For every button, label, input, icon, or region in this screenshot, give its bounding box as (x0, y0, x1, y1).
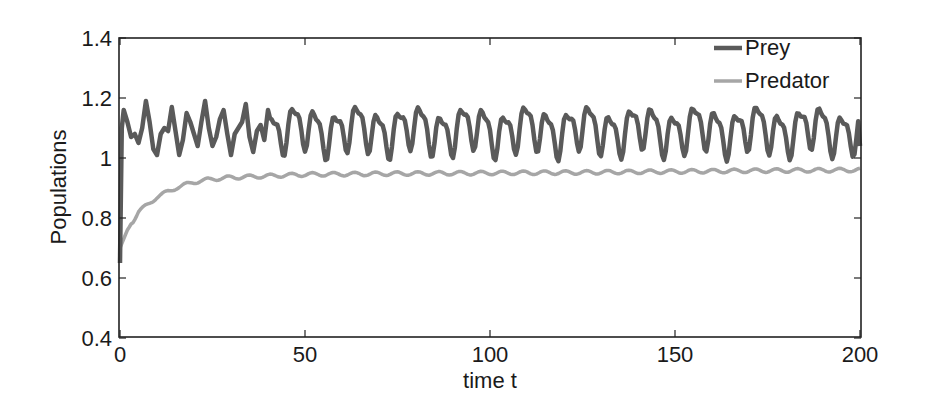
y-tick-label: 1 (100, 146, 112, 171)
x-axis-label: time t (463, 368, 517, 393)
legend-label: Predator (745, 68, 829, 93)
y-tick-label: 0.6 (81, 266, 112, 291)
y-tick-label: 0.8 (81, 206, 112, 231)
x-tick-label: 0 (114, 342, 126, 367)
x-tick-label: 50 (293, 342, 317, 367)
x-tick-label: 100 (472, 342, 509, 367)
legend-label: Prey (745, 35, 790, 60)
x-tick-label: 200 (842, 342, 879, 367)
y-axis-label: Populations (46, 130, 71, 245)
y-tick-label: 0.4 (81, 326, 112, 351)
y-tick-label: 1.2 (81, 86, 112, 111)
chart-background (0, 0, 925, 405)
chart: 050100150200 0.40.60.811.21.4 time t Pop… (0, 0, 925, 405)
x-tick-label: 150 (657, 342, 694, 367)
y-tick-label: 1.4 (81, 26, 112, 51)
